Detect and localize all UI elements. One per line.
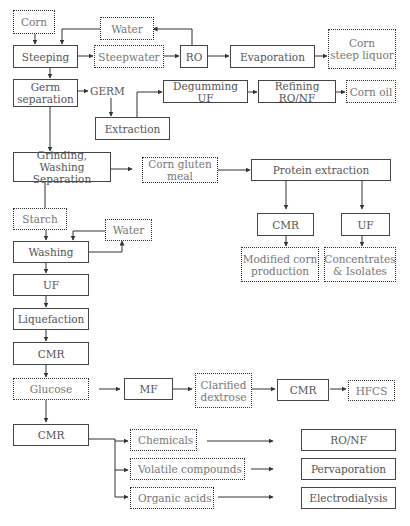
node-corn-oil: Corn oil [346,80,396,103]
node-germ-separation: Germ separation [13,79,78,107]
node-refining-ronf: Refining RO/NF [258,80,336,103]
node-cmr-bottom: CMR [13,424,89,446]
node-cmr-protein: CMR [257,213,314,236]
node-water-mid: Water [105,219,152,241]
node-volatile-compounds: Volatile compounds [130,458,245,480]
node-ronf-bottom: RO/NF [301,429,396,451]
node-hfcs: HFCS [348,380,395,401]
node-liquefaction: Liquefaction [13,308,89,330]
node-protein-extraction: Protein extraction [251,159,391,181]
node-ro: RO [180,45,208,68]
node-cmr-dextrose: CMR [277,379,329,401]
node-cmr-main: CMR [13,342,89,365]
node-clarified-dextrose: Clarified dextrose [195,373,252,408]
node-starch: Starch [13,208,67,230]
node-corn: Corn [13,10,55,34]
node-degumming-uf: Degumming UF [163,80,248,103]
node-concentrates-isolates: Concentrates & Isolates [324,247,396,282]
node-corn-gluten-meal: Corn gluten meal [142,157,218,183]
node-corn-steep-liquor: Corn steep liquor [328,29,396,69]
node-mf: MF [124,378,173,400]
node-uf-protein: UF [341,213,390,236]
node-electrodialysis: Electrodialysis [301,487,396,509]
label-germ: GERM [90,85,125,97]
node-water-top: Water [100,17,154,40]
node-extraction: Extraction [95,117,170,140]
node-steepwater: Steepwater [94,45,164,68]
node-steeping: Steeping [13,45,78,68]
node-chemicals: Chemicals [130,429,197,451]
node-washing: Washing [13,241,89,263]
node-glucose: Glucose [13,378,89,400]
node-organic-acids: Organic acids [130,487,214,509]
node-grinding-washing-separation: Grinding, Washing Separation [13,152,111,182]
node-evaporation: Evaporation [230,45,315,68]
node-uf-main: UF [13,274,89,296]
node-modified-corn-production: Modified corn production [241,247,319,282]
node-pervaporation: Pervaporation [301,458,396,480]
